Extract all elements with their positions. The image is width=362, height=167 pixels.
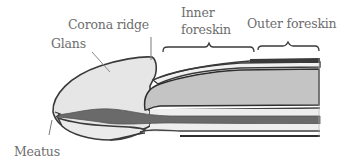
corona-ridge-label: Corona ridge — [68, 18, 149, 32]
outer-foreskin-brace — [258, 42, 319, 51]
inner-foreskin-label-line1: Inner — [181, 6, 214, 20]
meatus-label: Meatus — [14, 145, 60, 159]
inner-foreskin-label-line2: foreskin — [181, 23, 231, 37]
inner-foreskin-brace — [163, 43, 254, 52]
light-band — [150, 109, 320, 116]
glans-label: Glans — [51, 37, 86, 51]
outer-foreskin-label: Outer foreskin — [247, 17, 336, 31]
meatus-leader — [49, 120, 52, 135]
